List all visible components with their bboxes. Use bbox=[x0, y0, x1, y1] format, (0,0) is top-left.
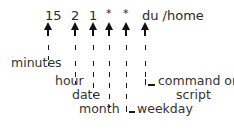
field-month: * bbox=[106, 8, 112, 19]
connector-line bbox=[48, 45, 50, 50]
label-hour: hour bbox=[55, 75, 84, 88]
connector-line bbox=[145, 45, 147, 50]
label-month: month bbox=[79, 103, 120, 116]
label-command-line2: script bbox=[176, 89, 211, 102]
connector-line bbox=[109, 45, 111, 50]
label-command-line1: command or bbox=[158, 75, 234, 88]
connector-line bbox=[145, 79, 147, 85]
connector-line bbox=[145, 61, 147, 66]
connector-line bbox=[93, 72, 95, 77]
connector-line bbox=[109, 61, 111, 66]
connector-line bbox=[93, 61, 95, 66]
connector-tick bbox=[129, 111, 135, 113]
field-minute: 15 bbox=[45, 9, 62, 22]
field-weekday: * bbox=[123, 8, 129, 19]
connector-line bbox=[126, 45, 128, 50]
field-command: du /home bbox=[142, 9, 204, 22]
arrow-shaft bbox=[47, 29, 49, 36]
arrow-shaft bbox=[144, 29, 146, 36]
label-date: date bbox=[72, 89, 100, 102]
connector-line bbox=[109, 72, 111, 77]
connector-line bbox=[126, 83, 128, 88]
label-minutes: minutes bbox=[11, 57, 62, 70]
connector-line bbox=[126, 94, 128, 99]
connector-line bbox=[126, 72, 128, 77]
field-date: 1 bbox=[89, 9, 97, 22]
connector-line bbox=[75, 61, 77, 66]
connector-line bbox=[126, 61, 128, 66]
arrow-shaft bbox=[92, 29, 94, 36]
arrow-shaft bbox=[108, 29, 110, 36]
connector-line bbox=[109, 94, 111, 99]
connector-line bbox=[126, 106, 128, 112]
field-hour: 2 bbox=[71, 9, 79, 22]
connector-line bbox=[145, 72, 147, 77]
connector-line bbox=[75, 45, 77, 50]
connector-line bbox=[109, 83, 111, 88]
arrow-shaft bbox=[74, 29, 76, 36]
connector-line bbox=[93, 45, 95, 50]
arrow-shaft bbox=[125, 29, 127, 36]
label-weekday: weekday bbox=[137, 103, 193, 116]
connector-tick bbox=[148, 84, 155, 86]
